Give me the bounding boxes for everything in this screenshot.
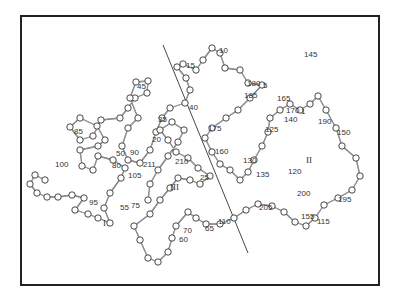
figure-frame [20, 15, 380, 286]
protein-backbone-figure: 1510152025354045505560657075808590951001… [0, 0, 399, 303]
